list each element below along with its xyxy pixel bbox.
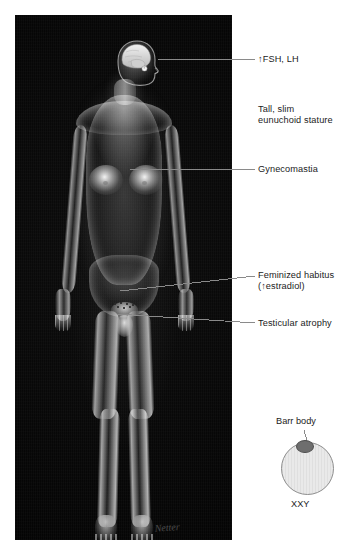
annotation-feminized-habitus: Feminized habitus (↑estradiol) xyxy=(258,270,334,293)
pubic-hair-pattern xyxy=(112,301,137,311)
right-toes xyxy=(131,534,153,540)
left-fingers xyxy=(55,315,71,331)
genitalia-testes xyxy=(116,315,133,337)
right-fingers xyxy=(178,315,194,331)
left-nipple xyxy=(103,181,108,185)
left-breast xyxy=(89,165,123,195)
barr-body xyxy=(296,440,314,453)
barr-body-label: Barr body xyxy=(276,416,316,426)
annotation-testicular-atrophy: Testicular atrophy xyxy=(258,318,332,329)
head-with-sagittal-brain xyxy=(111,39,167,87)
klinefelter-figure: Netter ↑FSH, LH Tall, slim eunuchoid sta… xyxy=(0,0,361,556)
right-shin xyxy=(128,409,152,527)
pituitary-gland xyxy=(142,66,147,71)
annotation-eunuchoid-stature: Tall, slim eunuchoid stature xyxy=(258,104,333,127)
right-nipple xyxy=(142,181,147,185)
karyotype-label: XXY xyxy=(291,499,309,509)
left-toes xyxy=(95,534,117,540)
annotation-fsh-lh: ↑FSH, LH xyxy=(258,54,299,65)
right-breast xyxy=(129,165,163,195)
photo-panel: Netter xyxy=(15,15,232,540)
left-shin xyxy=(97,409,121,527)
annotation-gynecomastia: Gynecomastia xyxy=(258,164,318,175)
